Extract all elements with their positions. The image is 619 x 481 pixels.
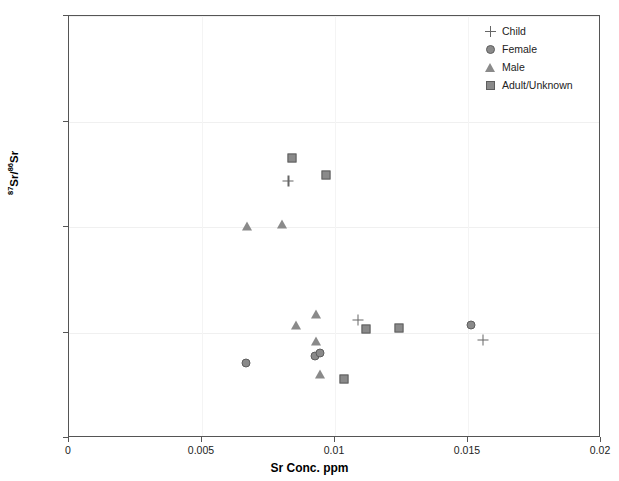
x-gridline [335, 16, 336, 436]
plus-marker-icon [283, 175, 294, 186]
triangle-marker-icon [315, 369, 325, 378]
legend-marker [482, 79, 498, 91]
data-point [340, 374, 349, 383]
x-gridline [468, 16, 469, 436]
y-axis-title-end: Sr [8, 151, 20, 163]
data-point [242, 221, 252, 230]
x-axis-title: Sr Conc. ppm [0, 461, 619, 475]
legend-item-male[interactable]: Male [482, 58, 594, 76]
square-marker-icon [340, 374, 349, 383]
y-gridline [69, 16, 599, 17]
data-point [311, 309, 321, 318]
data-point [316, 348, 325, 357]
data-point [361, 325, 370, 334]
legend-items: ChildFemaleMaleAdult/Unknown [482, 22, 594, 94]
y-axis-title-sup-86: 86 [6, 163, 15, 171]
x-axis-tick-label: 0 [65, 445, 71, 456]
legend-label: Adult/Unknown [502, 80, 573, 91]
data-point [288, 154, 297, 163]
data-point [394, 324, 403, 333]
triangle-marker-icon [311, 336, 321, 345]
legend: ChildFemaleMaleAdult/Unknown [482, 22, 594, 94]
square-marker-icon [486, 81, 495, 90]
x-axis-tick-mark [600, 437, 601, 442]
x-gridline [202, 16, 203, 436]
triangle-marker-icon [311, 309, 321, 318]
legend-label: Female [502, 44, 537, 55]
legend-marker [482, 61, 498, 73]
triangle-marker-icon [485, 63, 495, 72]
legend-label: Child [502, 26, 526, 37]
data-point [241, 359, 250, 368]
triangle-marker-icon [277, 219, 287, 228]
data-point [352, 314, 363, 325]
data-point [277, 219, 287, 228]
y-gridline [69, 122, 599, 123]
plus-marker-icon [477, 334, 488, 345]
x-axis-tick-label: 0.005 [188, 445, 214, 456]
y-gridline [69, 227, 599, 228]
square-marker-icon [394, 324, 403, 333]
legend-label: Male [502, 62, 525, 73]
data-point [311, 336, 321, 345]
y-axis-title-mid: Sr/ [8, 171, 20, 186]
x-axis-tick-label: 0.02 [590, 445, 610, 456]
plus-marker-icon [352, 314, 363, 325]
legend-item-child[interactable]: Child [482, 22, 594, 40]
data-point [315, 369, 325, 378]
x-axis-tick-label: 0.01 [324, 445, 344, 456]
x-axis-tick-mark [334, 437, 335, 442]
data-point [321, 171, 330, 180]
y-gridline [69, 333, 599, 334]
legend-item-adult-unknown[interactable]: Adult/Unknown [482, 76, 594, 94]
square-marker-icon [288, 154, 297, 163]
x-axis-tick-mark [201, 437, 202, 442]
square-marker-icon [321, 171, 330, 180]
data-point [477, 334, 488, 345]
circle-marker-icon [486, 45, 495, 54]
triangle-marker-icon [291, 321, 301, 330]
x-axis-tick-mark [467, 437, 468, 442]
circle-marker-icon [466, 321, 475, 330]
scatter-chart-figure: 87Sr/86Sr 0.70950.71000.71050.71100.7115… [0, 0, 619, 481]
circle-marker-icon [316, 348, 325, 357]
data-point [466, 321, 475, 330]
legend-marker [482, 43, 498, 55]
triangle-marker-icon [242, 221, 252, 230]
square-marker-icon [361, 325, 370, 334]
plus-marker-icon [485, 26, 496, 37]
data-point [283, 175, 294, 186]
legend-marker [482, 25, 498, 37]
x-axis-tick-label: 0.015 [454, 445, 480, 456]
x-axis-tick-mark [68, 437, 69, 442]
legend-item-female[interactable]: Female [482, 40, 594, 58]
y-axis-title: 87Sr/86Sr [6, 151, 20, 195]
y-axis-title-sup-87: 87 [6, 187, 15, 195]
circle-marker-icon [241, 359, 250, 368]
data-point [291, 321, 301, 330]
